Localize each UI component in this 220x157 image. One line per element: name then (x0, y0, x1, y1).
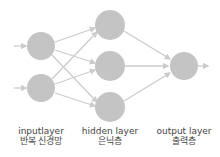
input-layer-label-en: inputlayer (6, 126, 76, 136)
input-layer-label: inputlayer 반복 신경망 (6, 126, 76, 146)
output-layer-label-en: output layer (149, 126, 219, 136)
hidden-layer-label-en: hidden layer (75, 126, 145, 136)
input-layer-label-ko: 반복 신경망 (6, 136, 76, 146)
hidden-node-3 (95, 92, 125, 122)
output-layer-label: output layer 출력층 (149, 126, 219, 146)
output-node-1 (170, 52, 198, 80)
input-node-1 (27, 32, 55, 60)
neural-network-diagram: inputlayer 반복 신경망 hidden layer 은닉층 outpu… (0, 0, 220, 157)
nodes (27, 10, 198, 122)
hidden-node-1 (95, 10, 125, 40)
hidden-layer-label-ko: 은닉층 (75, 136, 145, 146)
input-node-2 (27, 74, 55, 102)
hidden-layer-label: hidden layer 은닉층 (75, 126, 145, 146)
hidden-node-2 (95, 51, 125, 81)
output-layer-label-ko: 출력층 (149, 136, 219, 146)
